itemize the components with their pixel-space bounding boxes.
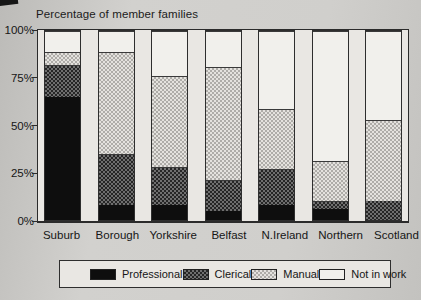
segment-not-in-work (152, 31, 187, 76)
x-label-n-ireland: N.Ireland (266, 229, 303, 241)
legend: ProfessionalClericalManualNot in work (59, 260, 391, 288)
segment-not-in-work (206, 31, 241, 67)
segment-not-in-work (366, 31, 401, 120)
segment-manual (366, 120, 401, 201)
y-tick-mark-0 (32, 221, 37, 222)
x-label-text: Belfast (211, 229, 246, 241)
segment-clerical (152, 167, 187, 205)
segment-clerical (99, 154, 134, 205)
segment-professional (206, 211, 241, 220)
y-tick-label-50: 50% (0, 120, 34, 132)
x-label-text: Suburb (43, 229, 80, 241)
y-tick-mark-75 (32, 77, 37, 78)
x-label-yorkshire: Yorkshire (155, 229, 192, 241)
legend-label: Professional (122, 268, 183, 280)
x-label-text: Borough (96, 229, 139, 241)
legend-item-clerical: Clerical (183, 268, 252, 280)
segment-manual (313, 161, 348, 201)
bar-borough (98, 30, 135, 221)
chart-screenshot: Percentage of member families 0%25%50%75… (0, 0, 421, 300)
segment-manual (259, 109, 294, 169)
x-label-suburb: Suburb (43, 229, 80, 241)
segment-professional (313, 209, 348, 220)
bar-northern (312, 30, 349, 221)
x-label-scotland: Scotland (378, 229, 415, 241)
legend-item-not-in-work: Not in work (319, 268, 406, 280)
segment-professional (45, 97, 80, 220)
legend-swatch-not-in-work (319, 269, 345, 280)
y-tick-mark-100 (32, 30, 37, 31)
segment-professional (99, 205, 134, 220)
segment-not-in-work (313, 31, 348, 161)
legend-label: Not in work (351, 268, 406, 280)
x-label-text: N.Ireland (261, 229, 308, 241)
segment-manual (45, 52, 80, 65)
bars-container (38, 30, 408, 221)
legend-label: Manual (283, 268, 319, 280)
x-axis-labels: SuburbBoroughYorkshireBelfastN.IrelandNo… (37, 229, 421, 241)
x-label-text: Northern (318, 229, 363, 241)
bar-yorkshire (151, 30, 188, 221)
chart-title: Percentage of member families (36, 8, 198, 20)
legend-swatch-manual (251, 269, 277, 280)
legend-label: Clerical (215, 268, 252, 280)
bar-n-ireland (258, 30, 295, 221)
x-label-borough: Borough (99, 229, 136, 241)
y-tick-label-100: 100% (0, 24, 34, 36)
x-label-belfast: Belfast (210, 229, 247, 241)
y-tick-mark-25 (32, 173, 37, 174)
y-tick-label-0: 0% (0, 215, 34, 227)
segment-manual (206, 67, 241, 180)
segment-manual (99, 52, 134, 154)
scan-corner-artifact (0, 0, 18, 6)
x-label-text: Scotland (374, 229, 419, 241)
bar-scotland (365, 30, 402, 221)
y-tick-mark-50 (32, 125, 37, 126)
segment-not-in-work (99, 31, 134, 52)
segment-manual (152, 76, 187, 167)
x-label-northern: Northern (322, 229, 359, 241)
segment-professional (152, 205, 187, 220)
y-tick-label-75: 75% (0, 72, 34, 84)
legend-item-manual: Manual (251, 268, 319, 280)
segment-clerical (259, 169, 294, 205)
bar-suburb (44, 30, 81, 221)
bar-belfast (205, 30, 242, 221)
segment-professional (259, 205, 294, 220)
segment-clerical (206, 180, 241, 210)
x-label-text: Yorkshire (149, 229, 197, 241)
segment-clerical (45, 65, 80, 97)
plot-area: 0%25%50%75%100% (37, 29, 409, 223)
segment-not-in-work (259, 31, 294, 108)
segment-clerical (366, 201, 401, 220)
segment-not-in-work (45, 31, 80, 52)
legend-item-professional: Professional (90, 268, 183, 280)
segment-clerical (313, 201, 348, 209)
y-tick-label-25: 25% (0, 167, 34, 179)
legend-swatch-professional (90, 269, 116, 280)
legend-swatch-clerical (183, 269, 209, 280)
